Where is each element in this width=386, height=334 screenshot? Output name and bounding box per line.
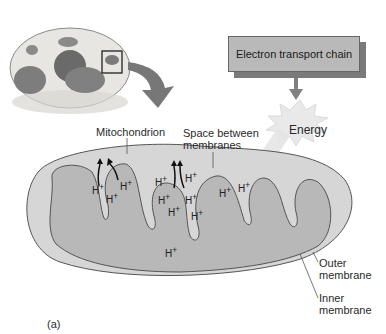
down-arrow-icon	[289, 89, 303, 100]
cell-illustration	[10, 28, 130, 114]
outer-membrane-label-2: membrane	[319, 269, 372, 281]
proton-label: H+	[168, 204, 180, 218]
down-arrow-shaft	[294, 72, 298, 90]
proton-label: H+	[185, 192, 197, 206]
proton-label: H+	[165, 245, 177, 259]
space-between-label-2: membranes	[183, 139, 241, 151]
inner-membrane-label-2: membrane	[319, 304, 372, 316]
etc-label: Electron transport chain	[236, 48, 352, 60]
inner-membrane-label-1: Inner	[319, 292, 344, 304]
panel-label: (a)	[47, 318, 60, 330]
mitochondrion-label: Mitochondrion	[96, 126, 165, 138]
proton-label: H+	[185, 170, 197, 184]
proton-label: H+	[238, 180, 250, 194]
proton-label: H+	[155, 174, 167, 188]
curved-arrow-icon	[128, 62, 174, 108]
energy-label: Energy	[289, 124, 327, 136]
electron-transport-chain-box: Electron transport chain	[228, 36, 360, 72]
proton-label: H+	[106, 191, 118, 205]
proton-label: H+	[219, 185, 231, 199]
proton-label: H+	[191, 208, 203, 222]
proton-label: H+	[120, 178, 132, 192]
space-between-label-1: Space between	[183, 127, 259, 139]
proton-label: H+	[92, 182, 104, 196]
outer-membrane-label-1: Outer	[319, 257, 347, 269]
